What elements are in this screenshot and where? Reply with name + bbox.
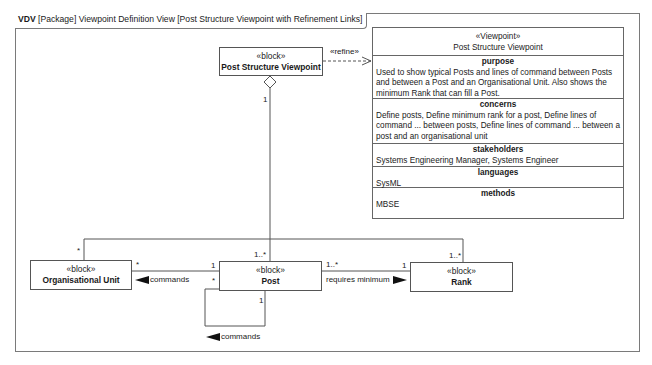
compartment-title: concerns xyxy=(376,100,620,111)
composition-diamond-icon xyxy=(264,76,276,88)
viewpoint-header: «Viewpoint» Post Structure Viewpoint xyxy=(373,28,623,56)
compartment-concerns: concerns Define posts, Define minimum ra… xyxy=(373,99,623,144)
block-organisational-unit[interactable]: «block» Organisational Unit xyxy=(30,260,132,290)
self-commands-label: commands xyxy=(221,332,260,342)
block-stereotype: «block» xyxy=(220,262,321,276)
block-rank[interactable]: «block» Rank xyxy=(410,262,513,292)
self-commands-target-mult: 1 xyxy=(259,296,263,306)
compartment-languages: languages SysML xyxy=(373,167,623,188)
block-name: Rank xyxy=(411,277,512,288)
self-commands-direction-arrow-icon xyxy=(206,333,220,341)
compartment-title: methods xyxy=(376,189,620,200)
orgunit-commands-post-mult: 1 xyxy=(211,261,215,271)
orgunit-commands-orgunit-mult: * xyxy=(136,260,139,270)
compartment-text: Define posts, Define minimum rank for a … xyxy=(376,111,620,143)
block-stereotype: «block» xyxy=(31,261,131,275)
block-stereotype: «block» xyxy=(411,263,512,277)
requires-minimum-direction-arrow-icon xyxy=(393,276,407,284)
composition-whole-multiplicity: 1 xyxy=(263,95,267,105)
self-commands-source-mult: * xyxy=(212,276,215,286)
viewpoint-stereotype: «Viewpoint» xyxy=(373,28,623,42)
block-name: Post Structure Viewpoint xyxy=(220,62,322,73)
compartment-title: purpose xyxy=(376,57,620,68)
compartment-text: Used to show typical Posts and lines of … xyxy=(376,68,620,100)
compartment-methods: methods MBSE xyxy=(373,188,623,212)
requires-minimum-rank-mult: 1 xyxy=(402,261,406,271)
compartment-purpose: purpose Used to show typical Posts and l… xyxy=(373,56,623,99)
requires-minimum-label: requires minimum xyxy=(326,275,390,285)
requires-minimum-post-mult: 1..* xyxy=(326,260,338,270)
refine-label: «refine» xyxy=(330,47,359,57)
post-part-multiplicity: 1..* xyxy=(254,250,266,260)
block-name: Organisational Unit xyxy=(31,275,131,286)
block-post[interactable]: «block» Post xyxy=(219,261,322,291)
block-name: Post xyxy=(220,276,321,287)
compartment-title: languages xyxy=(376,168,620,179)
commands-direction-arrow-icon xyxy=(135,276,149,284)
self-commands-association-line xyxy=(205,289,265,326)
compartment-stakeholders: stakeholders Systems Engineering Manager… xyxy=(373,144,623,167)
compartment-text: MBSE xyxy=(376,200,620,211)
block-stereotype: «block» xyxy=(220,48,322,62)
orgunit-part-multiplicity: * xyxy=(77,246,80,256)
orgunit-commands-label: commands xyxy=(150,275,189,285)
block-post-structure-viewpoint[interactable]: «block» Post Structure Viewpoint xyxy=(219,47,323,76)
compartment-text: Systems Engineering Manager, Systems Eng… xyxy=(376,156,620,167)
rank-part-multiplicity: 1..* xyxy=(449,251,461,261)
viewpoint-name: Post Structure Viewpoint xyxy=(373,42,623,53)
viewpoint-post-structure[interactable]: «Viewpoint» Post Structure Viewpoint pur… xyxy=(372,27,624,219)
compartment-title: stakeholders xyxy=(376,145,620,156)
